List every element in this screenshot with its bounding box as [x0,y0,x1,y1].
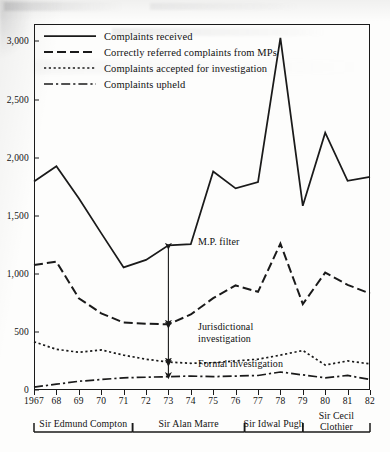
term-bracket-lines [0,0,390,452]
y-axis-tick-mark [34,41,39,42]
y-axis-tick-mark [34,99,39,100]
y-axis-tick-mark [34,157,39,158]
term-bracket-label: Sir Edmund Compton [39,418,127,429]
term-bracket-label: Sir Cecil Clothier [319,411,354,432]
ombudsman-term-brackets: Sir Edmund ComptonSir Alan MarreSir Idwa… [0,0,390,452]
y-axis-tick-mark [34,215,39,216]
scanned-page: 05001,0001,5002,0002,5003,000 1967686970… [0,0,390,452]
y-axis-tick-mark [34,331,39,332]
term-bracket-label: Sir Idwal Pugh [244,418,304,429]
y-axis-tick-mark [34,390,39,391]
term-bracket-label: Sir Alan Marre [158,418,218,429]
y-axis-tick-mark [34,273,39,274]
